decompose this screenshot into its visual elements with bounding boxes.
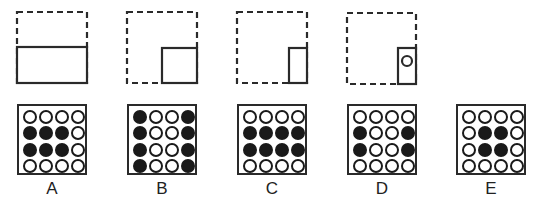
empty-hole-icon xyxy=(462,159,476,173)
option-label-e: E xyxy=(471,179,511,199)
empty-hole-icon xyxy=(510,126,524,140)
empty-hole-icon xyxy=(149,110,163,124)
empty-hole-icon xyxy=(462,143,476,157)
empty-hole-icon xyxy=(243,159,257,173)
dot-matrix xyxy=(352,109,416,175)
empty-hole-icon xyxy=(165,159,179,173)
empty-hole-icon xyxy=(55,159,69,173)
punched-hole-icon xyxy=(402,56,412,66)
dot-matrix xyxy=(22,109,86,175)
empty-hole-icon xyxy=(149,143,163,157)
filled-hole-icon xyxy=(133,110,147,124)
empty-hole-icon xyxy=(71,110,85,124)
filled-hole-icon xyxy=(39,126,53,140)
filled-hole-icon xyxy=(243,126,257,140)
empty-hole-icon xyxy=(385,143,399,157)
empty-hole-icon xyxy=(385,110,399,124)
filled-hole-icon xyxy=(39,143,53,157)
empty-hole-icon xyxy=(494,110,508,124)
folded-paper-rect xyxy=(289,48,307,83)
empty-hole-icon xyxy=(259,110,273,124)
fold-diagram-b xyxy=(127,12,197,83)
empty-hole-icon xyxy=(369,159,383,173)
empty-hole-icon xyxy=(71,143,85,157)
option-label-c: C xyxy=(252,179,292,199)
empty-hole-icon xyxy=(165,110,179,124)
fold-diagram-c xyxy=(237,12,307,83)
empty-hole-icon xyxy=(39,110,53,124)
empty-hole-icon xyxy=(401,110,415,124)
empty-hole-icon xyxy=(510,143,524,157)
fold-diagram-a xyxy=(17,12,87,83)
filled-hole-icon xyxy=(55,126,69,140)
filled-hole-icon xyxy=(478,143,492,157)
empty-hole-icon xyxy=(478,110,492,124)
filled-hole-icon xyxy=(275,126,289,140)
empty-hole-icon xyxy=(462,126,476,140)
empty-hole-icon xyxy=(23,110,37,124)
dot-matrix xyxy=(242,109,306,175)
fold-diagram-d xyxy=(347,13,416,84)
filled-hole-icon xyxy=(181,159,195,173)
filled-hole-icon xyxy=(133,159,147,173)
empty-hole-icon xyxy=(149,126,163,140)
dot-matrix xyxy=(461,109,525,175)
filled-hole-icon xyxy=(181,143,195,157)
dot-matrix xyxy=(132,109,196,175)
folded-paper-rect xyxy=(162,48,197,83)
filled-hole-icon xyxy=(243,143,257,157)
filled-hole-icon xyxy=(181,126,195,140)
empty-hole-icon xyxy=(23,159,37,173)
empty-hole-icon xyxy=(275,159,289,173)
paper-folding-puzzle: ABCDE xyxy=(0,0,541,205)
empty-hole-icon xyxy=(243,110,257,124)
empty-hole-icon xyxy=(401,159,415,173)
filled-hole-icon xyxy=(181,110,195,124)
option-label-d: D xyxy=(362,179,402,199)
option-grid-e[interactable] xyxy=(456,104,526,175)
empty-hole-icon xyxy=(71,159,85,173)
empty-hole-icon xyxy=(55,110,69,124)
filled-hole-icon xyxy=(494,126,508,140)
empty-hole-icon xyxy=(369,110,383,124)
filled-hole-icon xyxy=(494,143,508,157)
empty-hole-icon xyxy=(165,143,179,157)
filled-hole-icon xyxy=(133,126,147,140)
filled-hole-icon xyxy=(291,126,305,140)
folded-paper-rect xyxy=(17,47,87,83)
empty-hole-icon xyxy=(291,110,305,124)
empty-hole-icon xyxy=(71,126,85,140)
empty-hole-icon xyxy=(462,110,476,124)
empty-hole-icon xyxy=(369,126,383,140)
empty-hole-icon xyxy=(353,159,367,173)
filled-hole-icon xyxy=(259,126,273,140)
filled-hole-icon xyxy=(291,143,305,157)
empty-hole-icon xyxy=(510,110,524,124)
option-grid-a[interactable] xyxy=(17,104,87,175)
empty-hole-icon xyxy=(478,159,492,173)
filled-hole-icon xyxy=(23,143,37,157)
empty-hole-icon xyxy=(369,143,383,157)
empty-hole-icon xyxy=(353,110,367,124)
filled-hole-icon xyxy=(275,143,289,157)
filled-hole-icon xyxy=(401,143,415,157)
option-label-b: B xyxy=(142,179,182,199)
empty-hole-icon xyxy=(259,159,273,173)
filled-hole-icon xyxy=(401,126,415,140)
option-grid-d[interactable] xyxy=(347,104,417,175)
empty-hole-icon xyxy=(165,126,179,140)
empty-hole-icon xyxy=(291,159,305,173)
filled-hole-icon xyxy=(478,126,492,140)
empty-hole-icon xyxy=(494,159,508,173)
option-grid-c[interactable] xyxy=(237,104,307,175)
fold-diagrams xyxy=(0,0,541,100)
filled-hole-icon xyxy=(23,126,37,140)
filled-hole-icon xyxy=(353,126,367,140)
filled-hole-icon xyxy=(55,143,69,157)
option-label-a: A xyxy=(32,179,72,199)
empty-hole-icon xyxy=(39,159,53,173)
filled-hole-icon xyxy=(353,143,367,157)
filled-hole-icon xyxy=(133,143,147,157)
option-grid-b[interactable] xyxy=(127,104,197,175)
empty-hole-icon xyxy=(275,110,289,124)
